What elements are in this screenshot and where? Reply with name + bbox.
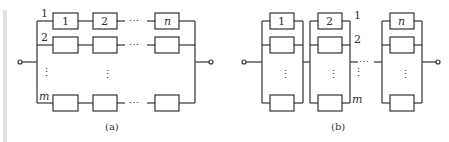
b-block-1: 1 — [278, 15, 285, 28]
b-vdots-labels: ⋮ — [353, 66, 364, 79]
a-block-2: 2 — [101, 15, 108, 28]
input-terminal-icon — [18, 60, 22, 64]
output-terminal-icon — [209, 60, 213, 64]
a-ellipsis-1: ⋯ — [129, 15, 139, 26]
a-ellipsis-2: ⋯ — [129, 39, 139, 50]
b-vdots-2: ⋮ — [328, 68, 339, 81]
a-row-label-m: m — [39, 90, 49, 103]
b-block-n: n — [398, 15, 405, 28]
a-vdots-mid: ⋮ — [102, 68, 113, 81]
output-terminal-icon-b — [436, 60, 440, 64]
a-row-label-1: 1 — [41, 7, 48, 20]
b-row-label-2: 2 — [354, 33, 361, 46]
b-vdots-n: ⋮ — [400, 68, 411, 81]
figure-b — [242, 13, 440, 111]
b-row-label-1: 1 — [354, 9, 361, 22]
a-row-label-2: 2 — [41, 31, 48, 44]
caption-a: (a) — [105, 121, 119, 132]
a-block-n: n — [164, 15, 171, 28]
a-vdots-left: ⋮ — [41, 66, 52, 79]
caption-b: (b) — [331, 121, 345, 132]
b-block-2: 2 — [326, 15, 333, 28]
input-terminal-icon-b — [242, 60, 246, 64]
a-block-1: 1 — [62, 15, 69, 28]
b-vdots-1: ⋮ — [280, 68, 291, 81]
b-row-label-m: m — [352, 93, 362, 106]
reliability-diagrams: 1 2 m 1 2 n ⋯ ⋯ ⋯ ⋮ ⋮ (a) 1 2 n 1 2 m ⋯ … — [0, 0, 449, 142]
a-ellipsis-m: ⋯ — [129, 97, 139, 108]
